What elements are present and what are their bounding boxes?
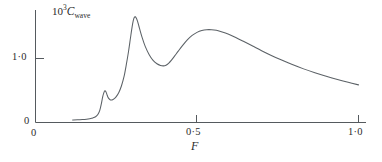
y-axis-label: 103Cwave bbox=[52, 4, 90, 19]
y-tick-label-0: 0 bbox=[24, 116, 29, 127]
x-tick-label-0-5: 0·5 bbox=[186, 127, 201, 138]
x-tick-label-1-0: 1·0 bbox=[348, 127, 363, 138]
y-tick-label-1-0: 1·0 bbox=[12, 52, 27, 63]
x-tick-label-0: 0 bbox=[31, 128, 36, 139]
x-axis-label: F bbox=[191, 140, 198, 152]
wave-resistance-chart: 103Cwave 1·0 0 0 0·5 1·0 F bbox=[0, 0, 382, 162]
data-curve bbox=[73, 17, 359, 120]
y-axis-label-prefix: 10 bbox=[52, 5, 63, 17]
plot-canvas bbox=[0, 0, 382, 162]
y-axis-label-subscript: wave bbox=[74, 11, 90, 20]
